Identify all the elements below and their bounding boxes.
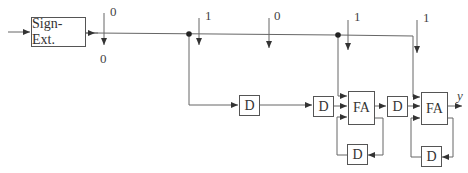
delay-label: D bbox=[352, 147, 362, 163]
sign-ext-label: Sign-Ext. bbox=[32, 16, 85, 48]
junction-dot bbox=[186, 31, 192, 37]
delay-block-3: D bbox=[387, 96, 408, 117]
bit-label-2: 0 bbox=[274, 9, 281, 22]
bit-label-4: 1 bbox=[423, 11, 430, 24]
full-adder-2: FA bbox=[421, 92, 448, 125]
delay-block-1: D bbox=[239, 95, 260, 116]
adder-label: FA bbox=[353, 100, 370, 116]
full-adder-1: FA bbox=[348, 91, 375, 125]
output-label: y bbox=[457, 89, 463, 102]
adder-label: FA bbox=[426, 101, 443, 117]
carry-delay-2: D bbox=[421, 146, 442, 167]
junction-dot bbox=[335, 32, 341, 38]
delay-label: D bbox=[392, 99, 402, 115]
delay-label: D bbox=[244, 98, 254, 114]
carry-delay-1: D bbox=[347, 144, 368, 165]
bit-label-0: 0 bbox=[110, 5, 117, 18]
sign-ext-block: Sign-Ext. bbox=[31, 17, 86, 47]
delay-label: D bbox=[426, 149, 436, 165]
bit-label-3: 1 bbox=[354, 10, 361, 23]
bit-label-1: 1 bbox=[205, 9, 212, 22]
delay-label: D bbox=[318, 99, 328, 115]
bit-below-label-0: 0 bbox=[100, 52, 107, 65]
circuit-diagram: Sign-Ext. 0 0 1 0 1 1 D D FA D D FA D y bbox=[0, 0, 468, 173]
delay-block-2: D bbox=[313, 96, 334, 117]
